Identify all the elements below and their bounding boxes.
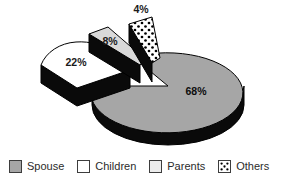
legend-label-others: Others: [236, 161, 269, 172]
legend-item-children[interactable]: Children: [77, 160, 136, 173]
dots-pattern-icon: [219, 161, 230, 172]
pie-chart-plot-area: 68% 22% 8% 4%: [0, 0, 285, 146]
pie-chart-svg: 68% 22% 8% 4%: [0, 0, 285, 146]
slice-label-others: 4%: [133, 3, 149, 15]
legend-item-others[interactable]: Others: [218, 160, 269, 173]
slice-label-children: 22%: [65, 56, 87, 68]
pie-chart-figure: 68% 22% 8% 4% Spouse: [0, 0, 285, 184]
legend-swatch-others-icon: [218, 160, 231, 173]
legend-swatch-children-icon: [77, 160, 90, 173]
legend-label-spouse: Spouse: [27, 161, 64, 172]
legend-label-children: Children: [95, 161, 136, 172]
legend-label-parents: Parents: [167, 161, 205, 172]
legend-item-parents[interactable]: Parents: [149, 160, 205, 173]
slice-label-parents: 8%: [102, 35, 118, 47]
legend-swatch-spouse-icon: [9, 160, 22, 173]
chart-legend: Spouse Children Parents Others: [0, 148, 285, 184]
legend-item-spouse[interactable]: Spouse: [9, 160, 64, 173]
slice-label-spouse: 68%: [185, 85, 207, 97]
legend-swatch-parents-icon: [149, 160, 162, 173]
